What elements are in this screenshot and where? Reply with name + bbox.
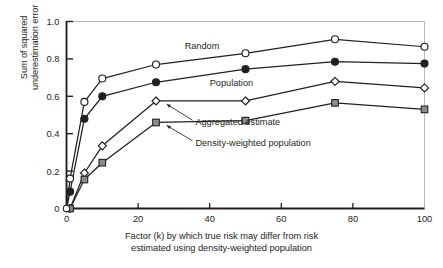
y-tick-label: 0.4 [46, 128, 59, 139]
series-marker-density-weighted-population [153, 119, 160, 126]
annotation-arrow-aggregated-estimate [167, 104, 193, 120]
series-marker-population [81, 115, 88, 122]
annotation-label-population: Population [210, 78, 253, 88]
annotation-arrow-density-weighted-population [167, 125, 193, 140]
x-tick-label: 60 [276, 213, 286, 224]
x-tick-label: 0 [64, 213, 69, 224]
series-marker-origin [63, 205, 69, 211]
x-tick-label: 20 [133, 213, 143, 224]
series-marker-density-weighted-population [421, 106, 428, 113]
series-marker-population [153, 79, 160, 86]
annotation-label-aggregated-estimate: Aggregated estimate [195, 117, 280, 127]
series-marker-density-weighted-population [99, 159, 106, 166]
y-tick-label: 0.6 [46, 91, 59, 102]
series-marker-aggregated-estimate [242, 97, 250, 105]
y-tick-label: 0.8 [46, 53, 59, 64]
series-marker-population [67, 188, 74, 195]
x-axis-label-line2: estimated using density-weighted populat… [0, 242, 443, 254]
annotation-label-density-weighted-population: Density-weighted population [195, 138, 310, 148]
series-marker-population [242, 66, 249, 73]
x-axis-label-line1: Factor (k) by which true risk may differ… [0, 230, 443, 242]
series-marker-aggregated-estimate [331, 77, 339, 85]
x-tick-label: 40 [204, 213, 214, 224]
series-marker-aggregated-estimate [421, 84, 429, 92]
series-marker-density-weighted-population [81, 176, 88, 183]
x-tick-label: 100 [417, 213, 433, 224]
annotation-label-random: Random [185, 41, 220, 51]
series-marker-population [421, 60, 428, 67]
series-marker-random [153, 61, 160, 68]
y-tick-label: 0 [54, 203, 59, 214]
series-marker-random [67, 175, 74, 182]
y-tick-label: 1.0 [46, 16, 59, 27]
series-marker-random [99, 75, 106, 82]
series-marker-random [332, 36, 339, 43]
series-marker-population [332, 58, 339, 65]
y-tick-label: 0.2 [46, 166, 59, 177]
x-tick-label: 80 [348, 213, 358, 224]
series-marker-random [81, 98, 88, 105]
series-marker-population [99, 93, 106, 100]
series-marker-density-weighted-population [332, 100, 339, 107]
x-axis-label: Factor (k) by which true risk may differ… [0, 230, 443, 255]
series-marker-random [242, 50, 249, 57]
series-marker-random [421, 43, 428, 50]
plot-area: 00.20.40.60.81.0020406080100RandomPopula… [0, 0, 443, 268]
chart-figure: Sum of squared underestimation error 00.… [0, 0, 443, 268]
